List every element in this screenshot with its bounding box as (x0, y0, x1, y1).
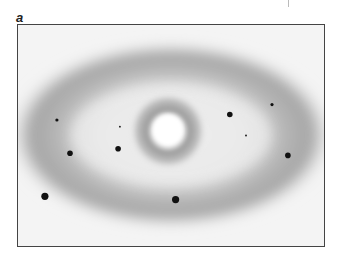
bragg-spot (172, 196, 179, 203)
scan-artifact (288, 0, 289, 7)
diffraction-pattern-frame (17, 24, 325, 247)
bragg-spot (41, 193, 48, 200)
bragg-spot (55, 118, 58, 121)
bragg-spot (67, 150, 73, 156)
bragg-spot (227, 112, 233, 118)
diffraction-pattern (18, 25, 324, 246)
bragg-spot (270, 103, 273, 106)
bragg-spot (119, 126, 121, 128)
bragg-spot (285, 153, 291, 159)
bragg-spot (115, 146, 121, 152)
bragg-spot (245, 135, 247, 137)
central-beam-region (154, 115, 182, 143)
panel-label: a (16, 11, 23, 24)
